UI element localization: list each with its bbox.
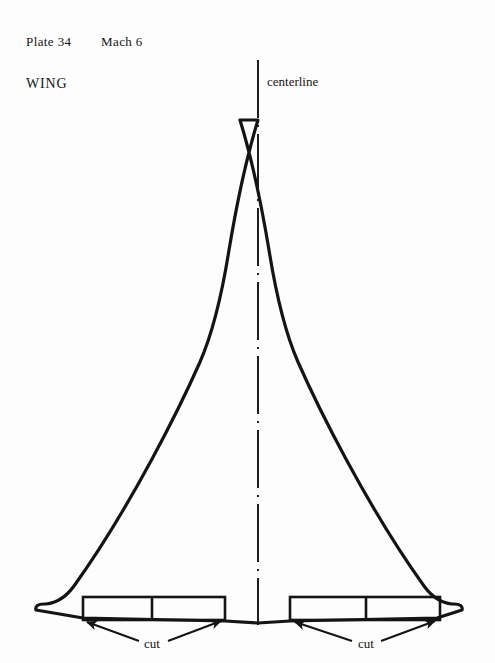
- cut-rect-right: [290, 597, 440, 620]
- centerline-label: centerline: [267, 74, 318, 90]
- part-name-label: WING: [26, 76, 67, 92]
- cut-arrow-right-inner: [381, 621, 435, 641]
- wing-outline: [36, 120, 462, 623]
- plate-label: Plate 34: [26, 34, 71, 50]
- cut-rect-left: [83, 597, 225, 620]
- cut-arrow-right-outer: [295, 622, 352, 641]
- cut-arrow-left-outer: [87, 622, 139, 641]
- wing-planform-drawing: [0, 0, 495, 663]
- diagram-sheet: Plate 34 Mach 6 WING centerline cut cut: [0, 0, 495, 663]
- cut-arrow-left-inner: [168, 621, 221, 641]
- cut-label-right: cut: [358, 636, 374, 652]
- cut-label-left: cut: [144, 636, 160, 652]
- cut-rect-left-outline: [83, 597, 225, 620]
- mach-label: Mach 6: [101, 34, 143, 50]
